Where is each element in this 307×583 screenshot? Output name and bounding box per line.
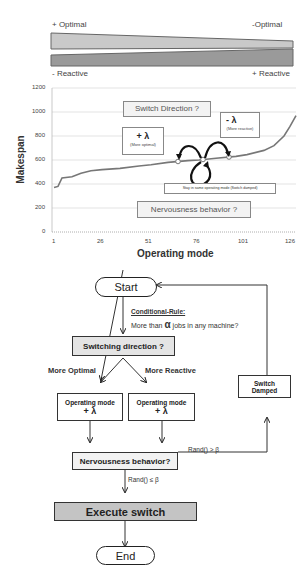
plus-lambda-sublabel: (More optimal): [123, 142, 163, 148]
operating-mode-right-box: Operating mode + λ: [128, 393, 195, 421]
switch-damped-line1: Switch: [254, 380, 275, 387]
operating-mode-right-line2: + λ: [155, 406, 168, 416]
x-tick-26: 26: [97, 238, 104, 244]
minus-lambda-label: - λ: [221, 114, 259, 126]
execute-switch-box: Execute switch: [54, 502, 197, 521]
rand-le-beta-label: Rand() ≤ β: [128, 476, 159, 483]
x-axis-title: Operating mode: [137, 248, 214, 259]
switch-damped-box: Switch Damped: [238, 375, 291, 398]
switch-direction-note: Switch Direction ?: [123, 101, 211, 117]
switch-damped-line2: Damped: [252, 387, 278, 394]
y-tick-600: 600: [35, 156, 45, 162]
y-tick-0: 0: [42, 228, 45, 234]
y-tick-1000: 1000: [32, 108, 45, 114]
makespan-chart: 1200 1000 800 600 400 200 0 1 26 51 76 1…: [0, 80, 307, 270]
rand-gt-beta-label: Rand() > β: [188, 446, 219, 453]
conditional-rule-title: Conditional-Rule:: [131, 308, 185, 315]
y-tick-200: 200: [35, 204, 45, 210]
stay-same-mode-note: Stay in same operating mode (Switch damp…: [164, 183, 276, 194]
operating-mode-left-line2: + λ: [84, 406, 97, 416]
more-optimal-label: More Optimal: [48, 366, 96, 375]
condition-post: jobs in any machine?: [171, 322, 239, 329]
minus-reactive-label: - Reactive: [52, 69, 88, 78]
y-tick-800: 800: [35, 132, 45, 138]
plus-optimal-label: + Optimal: [52, 20, 86, 29]
more-reactive-label: More Reactive: [145, 366, 196, 375]
conditional-rule-text: More than α jobs in any machine?: [131, 319, 238, 330]
start-terminal: Start: [95, 277, 157, 297]
minus-lambda-box: - λ (More reactive): [220, 112, 260, 138]
flowchart-connectors: [0, 270, 307, 583]
minus-lambda-sublabel: (More reactive): [221, 126, 259, 132]
nervousness-box: Nervousness behavior?: [72, 452, 178, 470]
operating-mode-left-line1: Operating mode: [65, 399, 115, 406]
plus-lambda-label: + λ: [123, 130, 163, 142]
y-tick-400: 400: [35, 180, 45, 186]
y-tick-1200: 1200: [32, 84, 45, 90]
plus-reactive-label: + Reactive: [252, 69, 290, 78]
y-axis-title: Makespan: [15, 132, 26, 188]
operating-mode-right-line1: Operating mode: [137, 399, 187, 406]
operating-mode-left-box: Operating mode + λ: [57, 393, 123, 421]
minus-optimal-label: -Optimal: [252, 20, 282, 29]
end-terminal: End: [96, 546, 155, 565]
condition-pre: More than: [131, 322, 164, 329]
plus-lambda-box: + λ (More optimal): [122, 127, 164, 155]
nervousness-note: Nervousness behavior ?: [137, 201, 251, 218]
spectrum-bars: [50, 32, 294, 70]
x-tick-76: 76: [193, 238, 200, 244]
x-tick-126: 126: [285, 238, 295, 244]
x-tick-1: 1: [52, 238, 55, 244]
switching-direction-box: Switching direction ?: [72, 336, 175, 356]
x-tick-101: 101: [238, 238, 248, 244]
x-tick-51: 51: [145, 238, 152, 244]
